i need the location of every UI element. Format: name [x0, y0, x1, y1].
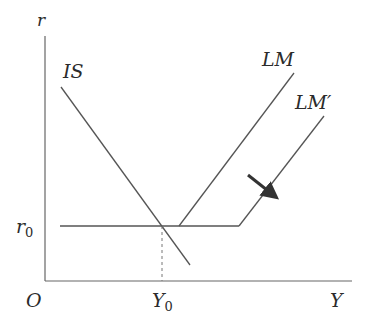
shift-arrow-icon — [248, 175, 272, 194]
islm-diagram: r IS LM LM′ r0 O Y0 Y — [0, 0, 367, 334]
lm-prime-curve — [239, 116, 324, 226]
lm-prime-label: LM′ — [294, 91, 332, 113]
lm-curve — [179, 73, 294, 226]
y-axis-label: Y — [330, 289, 345, 311]
origin-label: O — [26, 289, 42, 311]
is-label: IS — [62, 60, 84, 82]
r0-label: r0 — [16, 215, 33, 240]
y0-label: Y0 — [152, 289, 173, 314]
r-axis-label: r — [37, 10, 46, 30]
lm-label: LM — [261, 48, 295, 70]
is-curve — [61, 87, 190, 265]
